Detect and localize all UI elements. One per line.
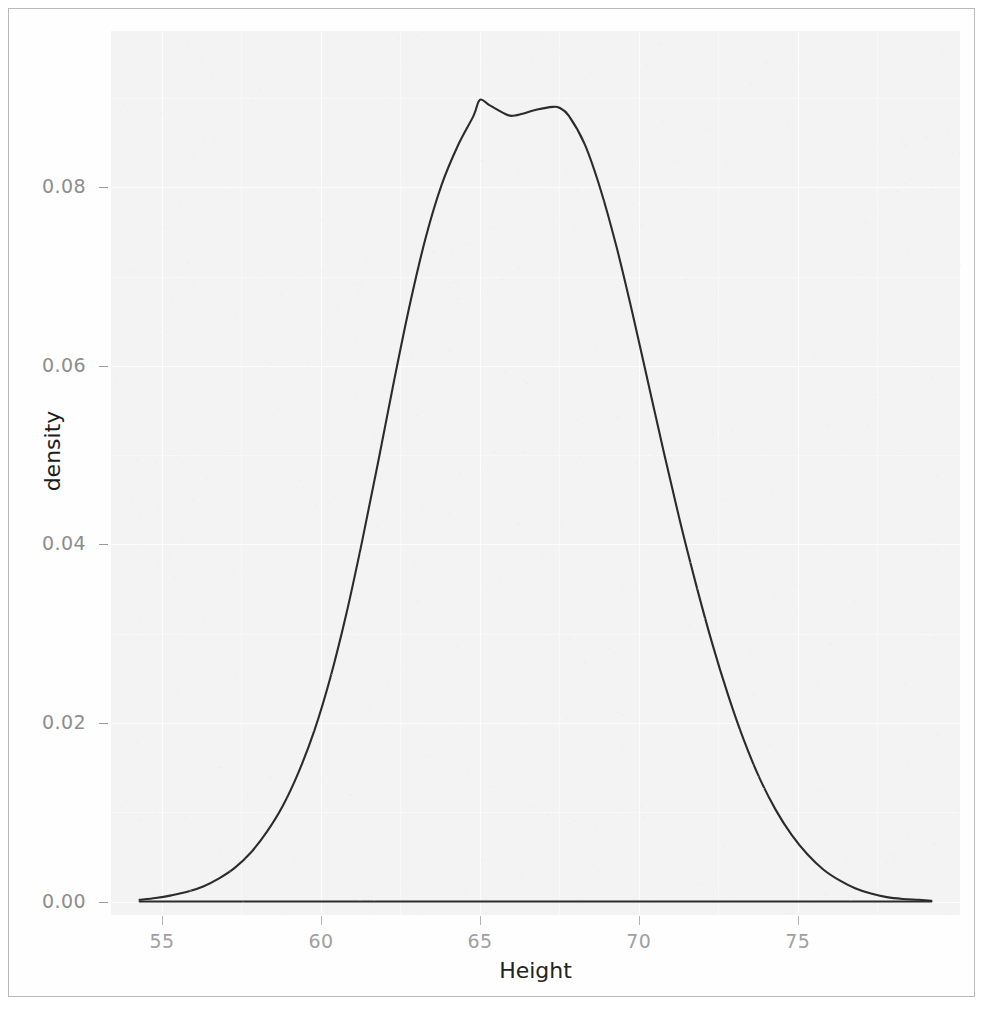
x-axis: 5560657075: [0, 0, 985, 1028]
x-tick-label: 70: [626, 932, 651, 951]
x-tick-label: 75: [785, 932, 810, 951]
x-tick-mark: [162, 916, 163, 925]
y-axis-title: density: [42, 391, 64, 511]
screenshot-page: 0.000.020.040.060.08 5560657075 Height d…: [0, 0, 985, 1028]
x-axis-title: Height: [111, 960, 960, 982]
density-plot-figure: 0.000.020.040.060.08 5560657075 Height d…: [0, 0, 985, 1028]
x-tick-mark: [321, 916, 322, 925]
x-tick-mark: [480, 916, 481, 925]
x-tick-label: 55: [149, 932, 174, 951]
x-tick-label: 65: [467, 932, 492, 951]
x-tick-label: 60: [308, 932, 333, 951]
x-tick-mark: [798, 916, 799, 925]
x-tick-mark: [639, 916, 640, 925]
